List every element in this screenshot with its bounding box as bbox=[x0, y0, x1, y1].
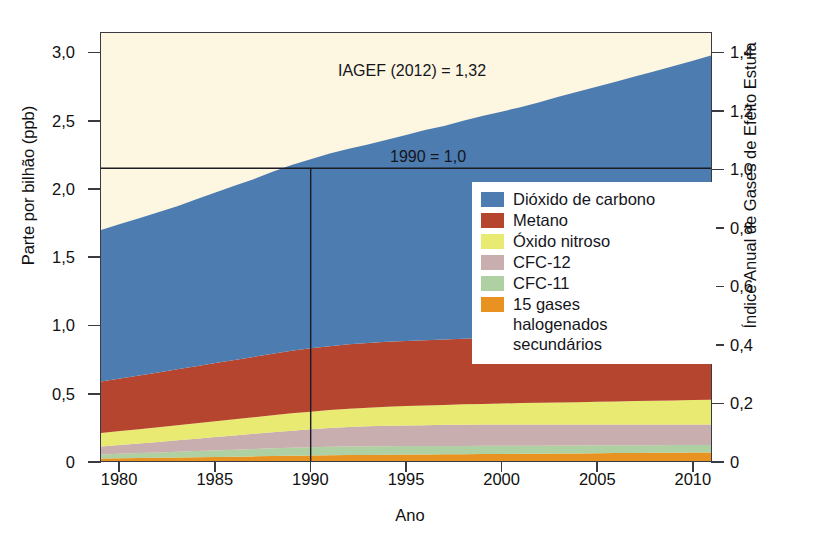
y-tick-left bbox=[88, 393, 101, 395]
x-tick-label: 1985 bbox=[196, 470, 233, 489]
y-tick-left bbox=[88, 52, 101, 54]
y-tick-right bbox=[711, 169, 724, 171]
y-tick-label-left: 2,5 bbox=[52, 111, 75, 130]
legend-item-label: Metano bbox=[513, 210, 568, 230]
annotation-iagef: IAGEF (2012) = 1,32 bbox=[338, 62, 486, 80]
y-tick-label-right: 1,0 bbox=[730, 160, 753, 179]
legend: Dióxido de carbonoMetanoÓxido nitrosoCFC… bbox=[472, 182, 716, 364]
x-tick-label: 1990 bbox=[292, 470, 329, 489]
y-tick-label-right: 0 bbox=[730, 453, 739, 472]
y-tick-label-left: 1,0 bbox=[52, 316, 75, 335]
legend-item-label: CFC-11 bbox=[513, 273, 570, 293]
legend-item-label: 15 gases halogenados secundários bbox=[513, 294, 608, 354]
legend-swatch-icon bbox=[481, 192, 504, 207]
y-tick-label-left: 3,0 bbox=[52, 43, 75, 62]
legend-item: 15 gases halogenados secundários bbox=[481, 294, 704, 354]
legend-swatch-icon bbox=[481, 213, 504, 228]
legend-item: CFC-12 bbox=[481, 252, 704, 272]
y-tick-label-right: 0,4 bbox=[730, 335, 753, 354]
annotation-1990-reference: 1990 = 1,0 bbox=[390, 148, 466, 166]
x-tick-label: 2005 bbox=[579, 470, 616, 489]
x-tick-label: 2010 bbox=[675, 470, 712, 489]
legend-swatch-icon bbox=[481, 297, 504, 312]
y-tick-label-left: 0 bbox=[66, 453, 75, 472]
legend-item: CFC-11 bbox=[481, 273, 704, 293]
y-tick-right bbox=[711, 52, 724, 54]
legend-item: Metano bbox=[481, 210, 704, 230]
y-tick-label-left: 2,0 bbox=[52, 179, 75, 198]
y-tick-right bbox=[711, 110, 724, 112]
y-tick-label-right: 0,2 bbox=[730, 394, 753, 413]
y-tick-label-left: 0,5 bbox=[52, 384, 75, 403]
y-tick-left bbox=[88, 325, 101, 327]
y-tick-label-left: 1,5 bbox=[52, 248, 75, 267]
y-tick-left bbox=[88, 120, 101, 122]
legend-item: Dióxido de carbono bbox=[481, 189, 704, 209]
legend-item-label: CFC-12 bbox=[513, 252, 571, 272]
y-tick-right bbox=[711, 461, 724, 463]
legend-swatch-icon bbox=[481, 255, 504, 270]
legend-item-label: Óxido nitroso bbox=[513, 231, 610, 251]
y-tick-label-right: 0,8 bbox=[730, 218, 753, 237]
y-tick-label-right: 1,4 bbox=[730, 43, 753, 62]
y-tick-label-right: 1,2 bbox=[730, 101, 753, 120]
legend-swatch-icon bbox=[481, 234, 504, 249]
legend-swatch-icon bbox=[481, 276, 504, 291]
legend-item-label: Dióxido de carbono bbox=[513, 189, 655, 209]
y-tick-left bbox=[88, 461, 101, 463]
x-tick-label: 1995 bbox=[388, 470, 425, 489]
y-tick-left bbox=[88, 188, 101, 190]
x-axis-title: Ano bbox=[0, 506, 820, 525]
x-tick-label: 2000 bbox=[483, 470, 520, 489]
y-tick-left bbox=[88, 256, 101, 258]
y-axis-left-title: Parte por bilhão (ppb) bbox=[19, 0, 38, 376]
y-tick-right bbox=[711, 403, 724, 405]
y-tick-label-right: 0,6 bbox=[730, 277, 753, 296]
greenhouse-gas-area-chart: Parte por bilhão (ppb) Índice Anual de G… bbox=[0, 0, 820, 546]
x-tick-label: 1980 bbox=[101, 470, 138, 489]
legend-item: Óxido nitroso bbox=[481, 231, 704, 251]
